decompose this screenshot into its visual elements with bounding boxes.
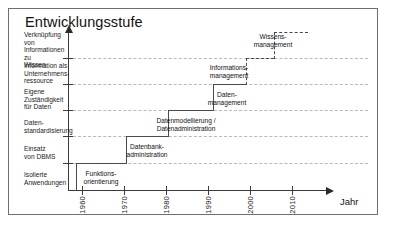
y-axis-label-5: Information als Unternehmens- ressource	[24, 62, 72, 85]
y-axis-label-2: Einsatz von DBMS	[24, 145, 72, 160]
step-tread-5	[246, 58, 274, 59]
x-axis-arrow-icon	[326, 187, 334, 195]
x-tick-1980	[166, 186, 167, 195]
y-tick-2	[63, 136, 73, 137]
chart-plot-area: Verknüpfung von Informationen zu Wissen …	[0, 0, 394, 231]
step-tread-2	[126, 136, 168, 137]
step-label-wissensmanagement: Wissens- management	[252, 33, 294, 49]
x-tick-1960	[82, 186, 83, 195]
x-axis-label-1960: 1960	[78, 196, 87, 214]
y-tick-1	[63, 163, 73, 164]
x-axis-label-2010: 2010	[288, 196, 297, 214]
y-axis-label-1: Isolierte Anwendungen	[24, 171, 72, 186]
x-axis-label-1970: 1970	[120, 196, 129, 214]
step-label-datenmanagement: Daten- management	[205, 91, 249, 107]
x-tick-2000	[250, 186, 251, 195]
x-axis-label-1990: 1990	[204, 196, 213, 214]
step-label-informationsmanagement: Informations- management	[208, 64, 250, 80]
x-tick-2010	[292, 186, 293, 195]
step-label-datenmodellierung: Datenmodellierung / Datenadministration	[155, 117, 217, 133]
figure-root: Entwicklungsstufe Verknüpfung von Inform…	[0, 0, 394, 231]
step-label-funktionsorientierung: Funktions- orientierung	[78, 170, 124, 186]
x-axis-label-1980: 1980	[162, 196, 171, 214]
step-tread-3	[168, 110, 213, 111]
gridline-level-3	[68, 110, 368, 111]
step-riser-0	[76, 163, 77, 191]
step-label-datenbankadministration: Datenbank- administration	[122, 143, 172, 159]
gridline-level-5	[68, 58, 368, 59]
step-tread-1	[76, 163, 126, 164]
x-tick-1970	[124, 186, 125, 195]
y-axis-label-4: Eigene Zuständigkeit für Daten	[24, 88, 72, 111]
x-axis-label-2000: 2000	[246, 196, 255, 214]
x-axis-title: Jahr	[340, 196, 358, 207]
y-axis-label-3: Daten- standardisierung	[24, 119, 72, 134]
x-tick-1990	[208, 186, 209, 195]
gridline-level-2	[68, 136, 368, 137]
x-axis-line	[68, 190, 326, 191]
step-tread-4	[213, 84, 246, 85]
